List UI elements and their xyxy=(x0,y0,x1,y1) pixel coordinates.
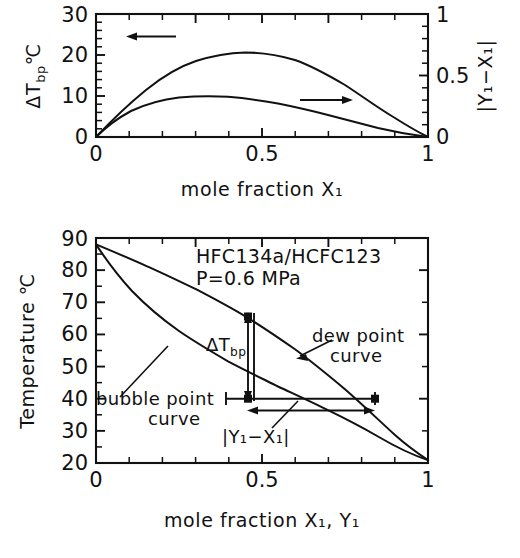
top-plot-frame xyxy=(96,14,428,137)
top-panel-svg: 0 0.5 1 0 10 20 30 0 0.5 1 ΔTbp℃ |Y₁−X₁| xyxy=(0,0,520,215)
top-left-ytick-30: 30 xyxy=(61,3,88,27)
chart-title-line1: HFC134a/HCFC123 xyxy=(196,245,381,267)
top-x-axis-ticks xyxy=(96,14,428,137)
top-right-axis-title: |Y₁−X₁| xyxy=(474,40,497,113)
bottom-xtick-1: 1 xyxy=(421,468,434,492)
top-right-ytick-1: 1 xyxy=(436,3,449,27)
top-left-ytick-20: 20 xyxy=(61,43,88,67)
top-left-axis-title-sub: bp xyxy=(33,65,48,83)
top-left-axis-title-unit: ℃ xyxy=(22,43,44,65)
top-xtick-0p5: 0.5 xyxy=(245,142,278,166)
chart-title-line2: P=0.6 MPa xyxy=(196,267,301,289)
svg-text:ΔTbp℃: ΔTbp℃ xyxy=(22,43,48,108)
bottom-y-axis-title-text: Temperature ℃ xyxy=(16,273,38,430)
top-right-ytick-0p5: 0.5 xyxy=(436,64,469,88)
top-left-axis-title: ΔTbp℃ xyxy=(22,43,48,108)
top-left-axis-ticks xyxy=(96,14,105,137)
chart-panel-bottom: HFC134a/HCFC123 P=0.6 MPa ΔTbp |Y₁−X₁| d… xyxy=(0,215,520,558)
bottom-panel-svg: HFC134a/HCFC123 P=0.6 MPa ΔTbp |Y₁−X₁| d… xyxy=(0,215,520,558)
top-right-ytick-0: 0 xyxy=(436,125,449,149)
delta-tbp-label-main: ΔT xyxy=(206,334,231,355)
curve-delta-tbp xyxy=(96,53,428,138)
abs-y1-x1-leader xyxy=(272,401,298,428)
bottom-ytick-20: 20 xyxy=(61,451,88,475)
bottom-ytick-90: 90 xyxy=(61,227,88,251)
abs-y1-x1-double-arrow xyxy=(247,407,375,415)
dew-point-marker xyxy=(244,313,252,321)
chart-panel-top: 0 0.5 1 0 10 20 30 0 0.5 1 ΔTbp℃ |Y₁−X₁| xyxy=(0,0,520,215)
top-x-axis-title: mole fraction X₁ xyxy=(181,178,343,200)
bottom-y-axis-title: Temperature ℃ xyxy=(16,273,38,430)
top-left-ytick-10: 10 xyxy=(61,84,88,108)
dew-tie-marker xyxy=(371,395,379,403)
bottom-xtick-0: 0 xyxy=(89,468,102,492)
top-xtick-1: 1 xyxy=(421,142,434,166)
figure-container: 0 0.5 1 0 10 20 30 0 0.5 1 ΔTbp℃ |Y₁−X₁| xyxy=(0,0,520,558)
right-axis-arrow xyxy=(300,96,353,104)
bubble-point-curve-label-2: curve xyxy=(148,408,200,429)
bottom-xtick-0p5: 0.5 xyxy=(245,468,278,492)
abs-y1-x1-label: |Y₁−X₁| xyxy=(222,426,290,447)
bottom-ytick-60: 60 xyxy=(61,322,88,346)
left-axis-arrow xyxy=(126,33,176,41)
top-right-axis-ticks xyxy=(419,14,428,137)
bottom-ytick-80: 80 xyxy=(61,258,88,282)
top-xtick-0: 0 xyxy=(89,142,102,166)
bottom-ytick-70: 70 xyxy=(61,290,88,314)
bottom-ytick-30: 30 xyxy=(61,419,88,443)
top-right-axis-title-text: |Y₁−X₁| xyxy=(474,40,497,113)
bottom-ytick-40: 40 xyxy=(61,387,88,411)
bottom-x-axis-title: mole fraction X₁, Y₁ xyxy=(164,509,360,531)
bubble-point-curve-label: bubble point xyxy=(96,388,214,409)
top-left-axis-title-main: ΔT xyxy=(22,83,44,109)
bottom-ytick-50: 50 xyxy=(61,355,88,379)
bubble-point-marker xyxy=(244,395,252,403)
top-left-ytick-0: 0 xyxy=(75,125,88,149)
dew-point-curve-label-2: curve xyxy=(330,345,382,366)
delta-tbp-label: ΔTbp xyxy=(206,334,246,359)
dew-point-curve-label: dew point xyxy=(312,325,404,346)
delta-tbp-label-sub: bp xyxy=(230,345,246,359)
